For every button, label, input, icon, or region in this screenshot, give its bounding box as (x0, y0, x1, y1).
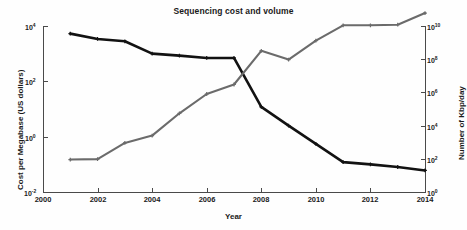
data-point-marker (68, 158, 72, 162)
data-point-marker (369, 23, 373, 27)
plot-area (0, 0, 467, 230)
series-line-0 (70, 34, 425, 171)
figure-canvas: Sequencing cost and volume 104 102 100 1… (0, 0, 467, 230)
series-line-1 (70, 13, 425, 159)
